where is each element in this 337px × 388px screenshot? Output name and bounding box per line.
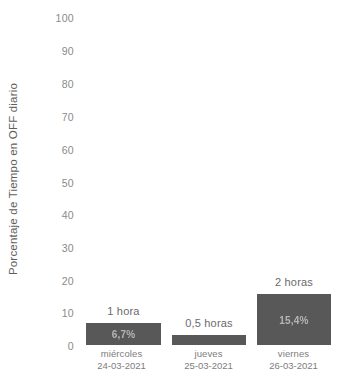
- y-tick-50: 50: [38, 178, 74, 189]
- bar-value-label-viernes: 15,4%: [257, 315, 331, 326]
- y-axis-title: Porcentaje de Tiempo en OFF diario: [0, 0, 26, 388]
- y-tick-60: 60: [38, 145, 74, 156]
- x-tick-viernes-date: 26-03-2021: [236, 360, 337, 372]
- bar-annotation-viernes: 2 horas: [235, 276, 337, 288]
- y-tick-100: 100: [38, 13, 74, 24]
- bar-group-jueves: 3,1% 0,5 horas: [172, 13, 246, 345]
- y-axis-tick-labels: 100 90 80 70 60 50 40 30 20 10 0: [38, 0, 74, 388]
- bar-annotation-miercoles: 1 hora: [64, 305, 183, 317]
- bar-jueves[interactable]: 3,1%: [172, 335, 246, 345]
- y-tick-40: 40: [38, 210, 74, 221]
- bar-value-label-miercoles: 6,7%: [86, 329, 161, 340]
- x-tick-viernes: viernes 26-03-2021: [236, 348, 337, 372]
- bar-chart-figure: Porcentaje de Tiempo en OFF diario 100 9…: [0, 0, 337, 388]
- bar-group-viernes: 15,4% 2 horas: [257, 13, 331, 345]
- x-axis-tick-labels: miércoles 24-03-2021 jueves 25-03-2021 v…: [84, 348, 331, 382]
- x-tick-viernes-day: viernes: [278, 348, 309, 359]
- bar-annotation-jueves: 0,5 horas: [150, 317, 268, 329]
- bar-viernes[interactable]: 15,4%: [257, 294, 331, 345]
- y-tick-30: 30: [38, 243, 74, 254]
- x-tick-jueves-day: jueves: [194, 348, 222, 359]
- y-tick-20: 20: [38, 276, 74, 287]
- y-tick-70: 70: [38, 112, 74, 123]
- y-tick-90: 90: [38, 46, 74, 57]
- bar-group-miercoles: 6,7% 1 hora: [86, 13, 161, 345]
- plot-area: 6,7% 1 hora 3,1% 0,5 horas 15,4% 2 horas: [84, 13, 331, 345]
- x-tick-miercoles-day: miércoles: [101, 348, 143, 359]
- y-tick-80: 80: [38, 79, 74, 90]
